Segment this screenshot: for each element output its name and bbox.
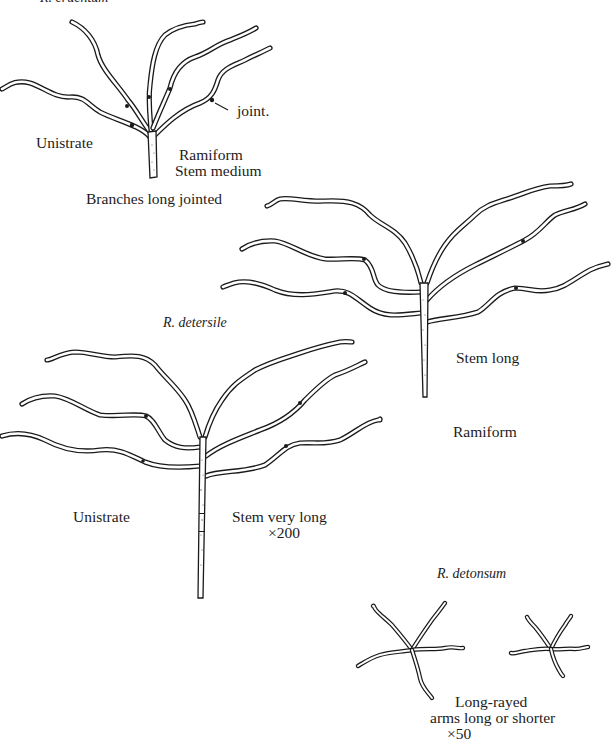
specimen-detersile-drawing xyxy=(2,342,380,598)
cruentum-branches xyxy=(2,22,270,137)
cruentum-branches-label: Branches long jointed xyxy=(86,190,222,207)
cruentum-stem xyxy=(148,131,157,178)
detonsum-arms-label: arms long or shorter xyxy=(430,709,555,726)
detonsum-star-large xyxy=(358,603,463,698)
cruentum-joint-label: joint. xyxy=(237,102,269,119)
detonsum-star-small xyxy=(511,616,588,676)
specimen-detonsum-drawing xyxy=(358,603,588,698)
detersile-magnification: ×200 xyxy=(268,524,300,541)
cruentum-title: R. cruentum xyxy=(40,0,108,6)
cruentum-unistrate-label: Unistrate xyxy=(36,134,93,151)
cruentum-stem-label: Stem medium xyxy=(175,162,262,179)
detersile-stem-label: Stem very long xyxy=(232,508,327,525)
detonsum-magnification: ×50 xyxy=(447,725,471,742)
joint-pointer-line xyxy=(215,103,228,110)
detersile-unistrate-label: Unistrate xyxy=(73,508,130,525)
cruentum-ramiform-label: Ramiform xyxy=(179,146,243,163)
figure-canvas: R. cruentum joint. Unistrate Ramiform St… xyxy=(0,0,612,742)
detersile-title: R. detersile xyxy=(163,314,227,331)
detersile-branches xyxy=(2,342,380,476)
detersile-stem xyxy=(198,437,206,598)
detonsum-title: R. detonsum xyxy=(437,565,506,582)
specimen-middle-drawing xyxy=(223,184,608,397)
middle-stem-long-label: Stem long xyxy=(456,349,519,366)
middle-branches xyxy=(223,184,608,322)
middle-stem xyxy=(420,283,428,397)
detonsum-long-rayed-label: Long-rayed xyxy=(455,693,527,710)
middle-ramiform-label: Ramiform xyxy=(453,423,517,440)
illustration xyxy=(0,0,612,742)
